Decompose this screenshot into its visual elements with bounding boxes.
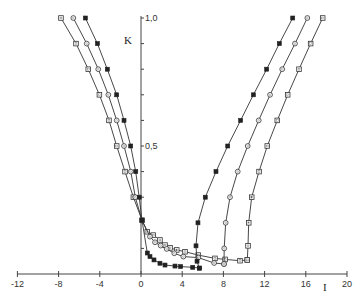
- filled-marker: [122, 118, 126, 122]
- chart: -12-8-4048121620 K I 1,0 0,5: [0, 0, 364, 297]
- square-marker: [158, 238, 163, 243]
- circle-marker: [223, 220, 228, 225]
- x-tick-label: 12: [260, 279, 270, 289]
- data-series: [59, 16, 325, 271]
- y-tick-label-0.5: 0,5: [145, 141, 158, 151]
- filled-marker: [163, 263, 167, 267]
- circle-marker: [293, 41, 298, 46]
- circle-marker: [181, 254, 186, 259]
- filled-marker: [203, 195, 207, 199]
- circle-marker: [96, 67, 101, 72]
- circle-marker: [222, 262, 227, 267]
- square-marker: [107, 118, 112, 123]
- circle-marker: [228, 195, 233, 200]
- circle-marker: [84, 41, 89, 46]
- square-marker: [257, 169, 262, 174]
- square-marker: [223, 257, 228, 262]
- filled-marker: [194, 244, 198, 248]
- filled-marker: [134, 170, 138, 174]
- series-bottom-filled: [142, 220, 201, 270]
- circle-marker: [235, 169, 240, 174]
- filled-marker: [179, 265, 183, 269]
- x-tick-label: 0: [138, 279, 143, 289]
- square-marker: [245, 258, 250, 263]
- circle-marker: [245, 144, 250, 149]
- filled-marker: [277, 42, 281, 46]
- filled-marker: [196, 221, 200, 225]
- filled-marker: [148, 255, 152, 259]
- circle-marker: [153, 240, 158, 245]
- filled-marker: [239, 118, 243, 122]
- filled-marker: [291, 16, 295, 20]
- square-marker: [275, 118, 280, 123]
- square-marker: [86, 67, 91, 72]
- circle-marker: [268, 92, 273, 97]
- x-tick-label: 4: [180, 279, 185, 289]
- series-right-circle: [222, 16, 310, 267]
- filled-marker: [83, 16, 87, 20]
- filled-marker: [197, 266, 201, 270]
- filled-marker: [152, 258, 156, 262]
- x-tick-label: -8: [55, 279, 63, 289]
- circle-marker: [280, 67, 285, 72]
- convergence-marker: [140, 218, 144, 222]
- circle-marker: [305, 16, 310, 21]
- series-left-square: [59, 16, 145, 223]
- filled-marker: [105, 67, 109, 71]
- filled-marker: [251, 93, 255, 97]
- filled-marker: [226, 144, 230, 148]
- square-marker: [308, 41, 313, 46]
- square-marker: [213, 256, 218, 261]
- square-marker: [285, 93, 290, 98]
- y-tick-label-1.0: 1,0: [145, 13, 158, 23]
- filled-marker: [137, 195, 141, 199]
- square-marker: [114, 144, 119, 149]
- square-marker: [59, 16, 64, 21]
- filled-marker: [214, 170, 218, 174]
- circle-marker: [71, 16, 76, 21]
- x-tick-label: 20: [342, 279, 352, 289]
- circle-marker: [172, 251, 177, 256]
- square-marker: [246, 244, 251, 249]
- square-marker: [265, 144, 270, 149]
- circle-marker: [222, 246, 227, 251]
- filled-marker: [191, 265, 195, 269]
- x-tick-label: -12: [11, 279, 24, 289]
- circle-marker: [128, 169, 133, 174]
- circle-marker: [106, 92, 111, 97]
- square-marker: [74, 41, 79, 46]
- square-marker: [249, 195, 254, 200]
- filled-marker: [129, 144, 133, 148]
- circle-marker: [158, 243, 163, 248]
- square-marker: [246, 221, 251, 226]
- series-right-filled: [194, 16, 295, 270]
- filled-marker: [158, 261, 162, 265]
- square-marker: [297, 67, 302, 72]
- x-axis-label: I: [323, 281, 327, 293]
- x-tick-label: 8: [221, 279, 226, 289]
- square-marker: [238, 258, 243, 263]
- y-axis-label: K: [124, 34, 132, 46]
- circle-marker: [122, 144, 127, 149]
- square-marker: [97, 93, 102, 98]
- series-left-filled: [83, 16, 144, 222]
- circle-marker: [114, 118, 119, 123]
- axes: -12-8-4048121620: [11, 16, 352, 289]
- filled-marker: [195, 259, 199, 263]
- square-marker: [123, 169, 128, 174]
- series-right-square: [245, 16, 325, 263]
- circle-marker: [256, 118, 261, 123]
- x-tick-label: -4: [96, 279, 104, 289]
- filled-marker: [95, 42, 99, 46]
- filled-marker: [115, 93, 119, 97]
- circle-marker: [164, 247, 169, 252]
- x-tick-label: 16: [301, 279, 311, 289]
- square-marker: [183, 249, 188, 254]
- circle-marker: [212, 261, 217, 266]
- square-marker: [320, 16, 325, 21]
- filled-marker: [173, 264, 177, 268]
- circle-marker: [148, 234, 153, 239]
- filled-marker: [265, 67, 269, 71]
